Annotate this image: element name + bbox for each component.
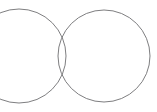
canvas-background bbox=[0, 0, 157, 112]
diagram-canvas bbox=[0, 0, 157, 112]
venn-diagram bbox=[0, 0, 157, 112]
